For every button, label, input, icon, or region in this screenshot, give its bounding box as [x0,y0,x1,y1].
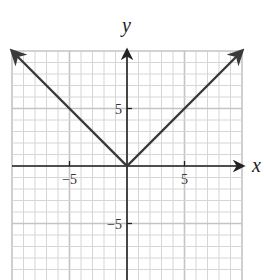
svg-text:−5: −5 [107,217,122,232]
svg-text:−5: −5 [62,172,77,187]
graph-plot: −555−5 x y [0,0,264,280]
svg-text:5: 5 [181,172,188,187]
y-axis-label: y [120,14,131,37]
x-axis-label: x [251,154,261,176]
svg-text:5: 5 [115,102,122,117]
